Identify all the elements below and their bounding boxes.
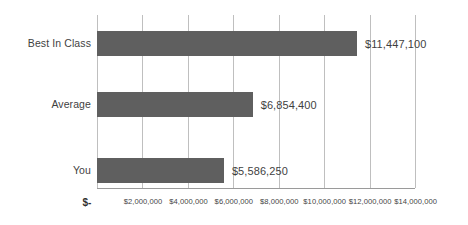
bar-you[interactable] [97,158,224,183]
tick-label-14m: $14,000,000 [394,197,437,206]
tick-label-10m: $10,000,000 [303,197,346,206]
category-axis-line [97,188,415,189]
bar-value-label: $5,586,250 [232,165,288,177]
tick-label-6m: $6,000,000 [215,197,254,206]
category-label-average: Average [3,98,91,110]
bar-value-label: $6,854,400 [261,99,317,111]
plot-area: $11,447,100 $6,854,400 $5,586,250 [97,15,415,188]
value-axis-labels: $- $2,000,000 $4,000,000 $6,000,000 $8,0… [0,197,468,213]
bar-row: $11,447,100 [97,31,415,56]
bar-value-label: $11,447,100 [365,38,426,50]
bar-chart: $11,447,100 $6,854,400 $5,586,250 Best I… [0,0,468,225]
tick-label-0: $- [83,197,92,208]
category-label-best-in-class: Best In Class [3,37,91,49]
bar-row: $5,586,250 [97,158,415,183]
category-label-you: You [3,164,91,176]
tick-label-12m: $12,000,000 [349,197,392,206]
bar-best-in-class[interactable] [97,31,357,56]
category-axis-labels: Best In Class Average You [0,15,91,188]
bar-average[interactable] [97,92,253,117]
tick-label-8m: $8,000,000 [260,197,299,206]
tick-label-2m: $2,000,000 [124,197,163,206]
tick-label-4m: $4,000,000 [169,197,208,206]
bar-row: $6,854,400 [97,92,415,117]
